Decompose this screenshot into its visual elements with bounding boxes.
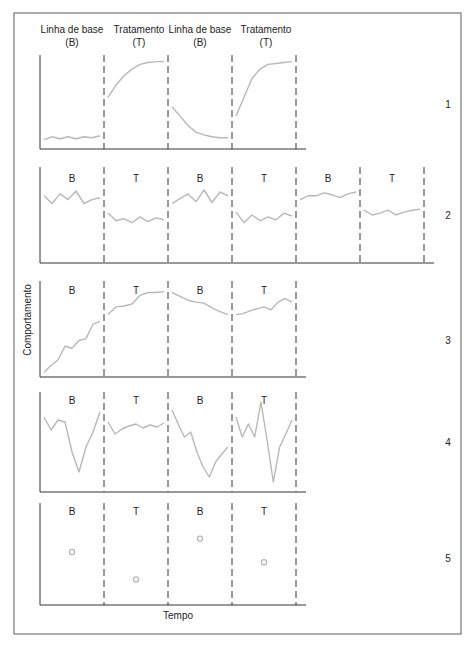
phase-label: T xyxy=(261,506,267,517)
data-point xyxy=(69,549,74,554)
y-axis-label: Comportamento xyxy=(22,284,33,356)
panel-number: 3 xyxy=(445,335,451,346)
header-label-3-line2: (B) xyxy=(193,37,206,48)
phase-label: B xyxy=(69,395,76,406)
panel-number: 5 xyxy=(445,553,451,564)
data-point xyxy=(261,560,266,565)
panel-4: BTBT4 xyxy=(40,392,451,492)
phase-label: B xyxy=(197,395,204,406)
data-point xyxy=(197,536,202,541)
data-line-phase-B xyxy=(44,321,100,372)
panel-number: 1 xyxy=(445,99,451,110)
data-point xyxy=(133,577,138,582)
header-label-2-line2: (T) xyxy=(133,37,146,48)
phase-label: B xyxy=(197,285,204,296)
phase-label: T xyxy=(261,173,267,184)
phase-label: T xyxy=(133,173,139,184)
phase-header-labels: Linha de base (B) Tratamento (T) Linha d… xyxy=(41,24,292,48)
data-line-phase-T xyxy=(236,212,292,223)
data-line-phase-T xyxy=(108,422,164,434)
panel-number: 2 xyxy=(445,210,451,221)
figure-frame xyxy=(14,13,461,634)
phase-label: T xyxy=(389,173,395,184)
data-line-phase-B xyxy=(172,190,228,204)
panel-3: BTBT3 xyxy=(40,281,451,377)
data-line-phase-T xyxy=(236,402,292,482)
header-label-1-line1: Linha de base xyxy=(41,24,104,35)
header-label-2-line1: Tratamento xyxy=(114,24,165,35)
phase-label: B xyxy=(197,506,204,517)
data-line-phase-B xyxy=(172,107,228,138)
x-axis-label: Tempo xyxy=(163,610,193,621)
phase-label: B xyxy=(69,506,76,517)
phase-label: B xyxy=(69,285,76,296)
panel-2: BTBTBT2 xyxy=(40,167,451,263)
data-line-phase-B xyxy=(44,191,100,204)
phase-label: T xyxy=(133,285,139,296)
phase-label: B xyxy=(69,173,76,184)
panel-5: BTBT5 xyxy=(40,503,451,605)
phase-label: T xyxy=(133,395,139,406)
header-label-1-line2: (B) xyxy=(65,37,78,48)
data-line-phase-T xyxy=(108,213,164,223)
header-label-4-line1: Tratamento xyxy=(241,24,292,35)
data-line-phase-T xyxy=(364,209,420,215)
data-line-phase-B xyxy=(300,192,356,200)
data-line-phase-B xyxy=(44,136,100,140)
phase-label: T xyxy=(133,506,139,517)
data-line-phase-T xyxy=(236,62,292,117)
data-line-phase-B xyxy=(172,410,228,477)
panel-1: 1 xyxy=(40,55,451,149)
phase-label: B xyxy=(197,173,204,184)
data-line-phase-T xyxy=(108,62,164,98)
panel-number: 4 xyxy=(445,437,451,448)
abab-design-figure: Linha de base (B) Tratamento (T) Linha d… xyxy=(0,0,473,645)
data-line-phase-B xyxy=(44,412,100,472)
phase-label: T xyxy=(261,285,267,296)
panels: 1BTBTBT2BTBT3BTBT4BTBT5 xyxy=(40,55,451,605)
header-label-4-line2: (T) xyxy=(260,37,273,48)
phase-label: B xyxy=(325,173,332,184)
data-line-phase-T xyxy=(236,298,292,314)
header-label-3-line1: Linha de base xyxy=(169,24,232,35)
